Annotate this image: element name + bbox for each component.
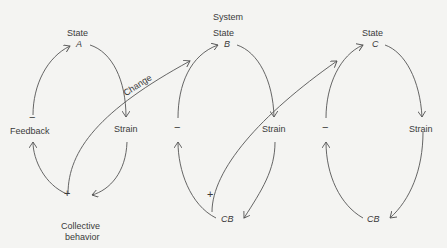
loop-a <box>33 45 127 195</box>
arrow-minus-to-state-c <box>326 45 363 118</box>
strain-b-label: Strain <box>262 124 286 134</box>
arrow-change-b-to-c <box>212 61 337 212</box>
minus-sign-c: − <box>322 122 328 132</box>
feedback-label: Feedback <box>10 126 50 136</box>
collective-behavior-line1: Collective <box>61 221 100 231</box>
arrow-cb-to-minus-c <box>326 142 363 218</box>
change-plus-sign-a: + <box>64 188 70 198</box>
loop-b <box>178 45 275 218</box>
cb-b-label: CB <box>221 214 234 224</box>
state-c-id: C <box>372 39 379 49</box>
state-a-id: A <box>76 39 82 49</box>
state-b-id: B <box>224 39 230 49</box>
change-plus-sign-b: + <box>207 189 213 199</box>
arrow-strain-to-cb-b <box>244 142 275 218</box>
minus-sign-b: − <box>174 122 180 132</box>
arrow-strain-to-collective-behavior <box>92 142 127 195</box>
feedback-minus-sign: − <box>29 112 35 122</box>
state-a-label: State <box>67 28 88 38</box>
system-title: System <box>213 12 243 22</box>
arrow-strain-to-cb-c <box>390 132 423 218</box>
arrow-state-c-to-strain <box>385 45 422 117</box>
cb-c-label: CB <box>367 214 380 224</box>
arrow-collective-behavior-to-feedback <box>33 142 67 194</box>
strain-a-label: Strain <box>114 124 138 134</box>
arrow-feedback-to-state-a <box>33 46 70 115</box>
state-b-label: State <box>213 28 234 38</box>
arrow-state-b-to-strain <box>237 45 274 117</box>
arrow-cb-to-minus-b <box>178 142 216 218</box>
strain-c-label: Strain <box>409 124 433 134</box>
collective-behavior-line2: behavior <box>65 232 100 242</box>
state-c-label: State <box>362 28 383 38</box>
arrow-minus-to-state-b <box>178 45 218 118</box>
